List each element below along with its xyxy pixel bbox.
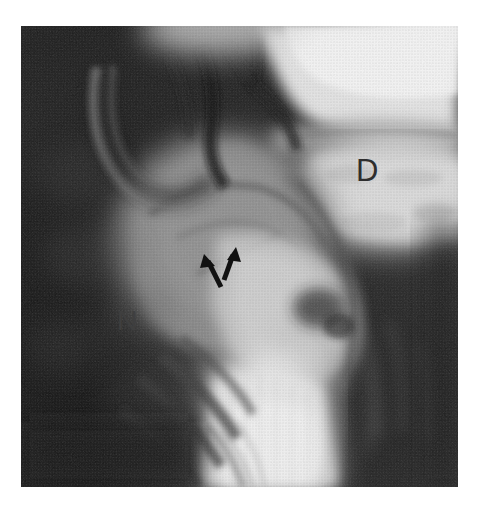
halftone-noise [21, 26, 458, 487]
radiograph-canvas [21, 26, 458, 487]
radiograph-image [21, 26, 458, 487]
radiograph-viewer: D N [0, 0, 480, 507]
